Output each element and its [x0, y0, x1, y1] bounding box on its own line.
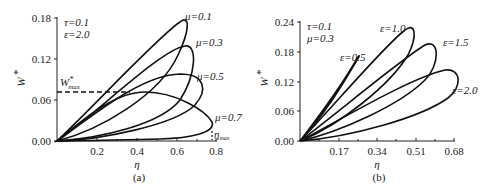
param-mu: μ=0.3: [306, 32, 334, 44]
ytick-0.06: 0.06: [32, 94, 52, 106]
ytick-0.12: 0.12: [32, 53, 51, 65]
param-tau: τ=0.1: [307, 20, 332, 32]
svg-text:W: W: [15, 77, 27, 87]
label-mu-0.3: μ=0.3: [195, 36, 223, 48]
panel-caption: (a): [133, 171, 146, 184]
xtick-0.8: 0.8: [209, 145, 223, 157]
y-axis-label: W *: [11, 70, 27, 87]
ytick-0.18: 0.18: [275, 46, 295, 58]
ytick-0.06: 0.06: [275, 105, 295, 117]
ytick-0.24: 0.24: [275, 16, 295, 28]
xtick-0.4: 0.4: [130, 145, 144, 157]
ytick-0.00: 0.00: [32, 135, 52, 147]
xtick-0.2: 0.2: [90, 145, 104, 157]
panel-b: 0.24 0.18 0.12 0.06 0.00 0.17 0.34 0.51 …: [254, 16, 478, 184]
curve-eps-1.5: [300, 44, 436, 141]
label-mu-0.5: μ=0.5: [196, 70, 224, 82]
label-eps-1.5: ε=1.5: [443, 36, 469, 48]
xtick-0.17: 0.17: [329, 145, 349, 157]
label-mu-0.1: μ=0.1: [184, 10, 212, 22]
label-eps-2.0: ε=2.0: [452, 84, 478, 96]
param-tau: τ=0.1: [64, 16, 89, 28]
svg-text:W: W: [258, 77, 270, 87]
figure: 0.18 0.12 0.06 0.00 0.2 0.4 0.6 0.8 η (a…: [0, 0, 486, 194]
wmax-label: W*max: [60, 75, 81, 91]
label-mu-0.7: μ=0.7: [214, 111, 242, 123]
label-eps-1.0: ε=1.0: [380, 22, 406, 34]
xtick-0.6: 0.6: [170, 145, 184, 157]
svg-text:*: *: [254, 70, 266, 76]
curve-eps-1.0: [300, 28, 414, 141]
label-eps-0.5: ε=0.5: [340, 51, 366, 63]
etamax-label: ηmax: [214, 128, 230, 141]
svg-text:*: *: [11, 70, 23, 76]
ytick-0.18: 0.18: [32, 12, 52, 24]
xtick-0.34: 0.34: [367, 145, 387, 157]
panel-a: 0.18 0.12 0.06 0.00 0.2 0.4 0.6 0.8 η (a…: [11, 10, 242, 184]
panel-caption: (b): [373, 171, 386, 184]
y-axis-label: W *: [254, 70, 270, 87]
xtick-0.51: 0.51: [406, 145, 425, 157]
ytick-0.12: 0.12: [275, 76, 294, 88]
ytick-0.00: 0.00: [275, 135, 295, 147]
curve-eps-0.5: [300, 56, 359, 141]
x-axis-label: η: [134, 158, 139, 170]
xtick-0.68: 0.68: [444, 145, 464, 157]
param-epsilon: ε=2.0: [64, 28, 90, 40]
x-axis-label: η: [374, 158, 379, 170]
